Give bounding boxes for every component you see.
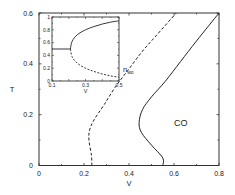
- x-tick-label: 0: [37, 170, 41, 177]
- co-region-label: CO: [174, 118, 188, 128]
- inset-y-tick-label: 0.6: [43, 39, 50, 45]
- x-tick-label: 0.6: [169, 170, 179, 177]
- y-tick-label: 0: [29, 162, 33, 169]
- x-axis-label: V: [126, 179, 131, 188]
- x-tick-label: 0.4: [124, 170, 134, 177]
- inset-plot: 0.10.30.500.20.40.60.81V: [43, 14, 123, 94]
- x-tick-label: 0.8: [214, 170, 224, 177]
- inset-y-tick-label: 0: [47, 78, 50, 84]
- y-tick-label: 0.2: [23, 111, 33, 118]
- n-wo-label: nwo: [123, 65, 134, 75]
- labels: COnwo: [123, 65, 188, 128]
- solid-boundary-curve: [139, 13, 219, 166]
- y-axis-label: T: [10, 85, 15, 94]
- inset-y-tick-label: 0.8: [43, 27, 50, 33]
- inset-y-tick-label: 0.4: [43, 52, 50, 58]
- inset-x-axis-label: V: [84, 88, 88, 94]
- inset-y-tick-label: 0.2: [43, 65, 50, 71]
- y-tick-label: 0.4: [23, 60, 33, 67]
- y-tick-label: 0.6: [23, 10, 33, 17]
- phase-diagram-chart: 00.20.40.60.800.20.40.6VT 0.10.30.500.20…: [0, 0, 235, 195]
- inset-x-tick-label: 0.5: [116, 82, 123, 88]
- inset-y-tick-label: 1: [47, 14, 50, 20]
- x-tick-label: 0.2: [79, 170, 89, 177]
